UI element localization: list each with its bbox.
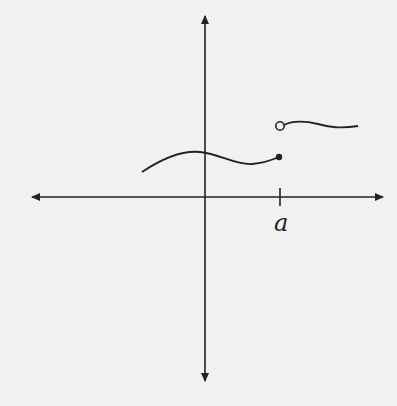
tick-label-a: a [274, 211, 288, 235]
piecewise-function-graph: a [0, 0, 397, 406]
graph-canvas [0, 0, 397, 406]
left-curve [142, 152, 279, 172]
open-circle [276, 122, 284, 130]
right-curve [284, 122, 358, 128]
closed-dot [276, 154, 282, 160]
